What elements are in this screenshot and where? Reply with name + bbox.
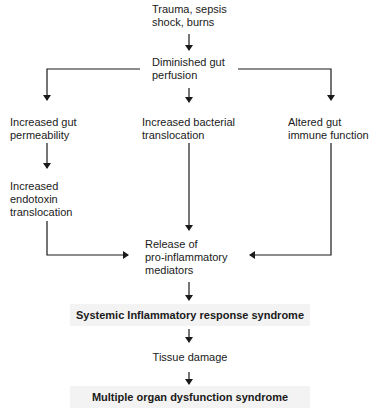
node-increased-endotoxin-translocation: Increased endotoxin translocation: [10, 180, 72, 219]
node-sirs: Systemic Inflammatory response syndrome: [70, 309, 310, 322]
node-trauma: Trauma, sepsis shock, burns: [152, 3, 227, 29]
arrow-immune-release: [250, 143, 331, 255]
node-altered-gut-immune-function: Altered gut immune function: [288, 116, 369, 142]
node-release-mediators: Release of pro-inflammatory mediators: [145, 238, 228, 277]
node-mods: Multiple organ dysfunction syndrome: [70, 391, 310, 404]
node-increased-bacterial-translocation: Increased bacterial translocation: [142, 116, 235, 142]
arrow-endotoxin-release: [47, 221, 128, 255]
node-diminished-gut-perfusion: Diminished gut perfusion: [152, 56, 225, 82]
node-increased-gut-permeability: Increased gut permeability: [10, 116, 77, 142]
arrow-diminished-immune: [238, 69, 331, 100]
node-tissue-damage: Tissue damage: [70, 351, 310, 364]
arrow-diminished-permeability: [47, 69, 140, 100]
